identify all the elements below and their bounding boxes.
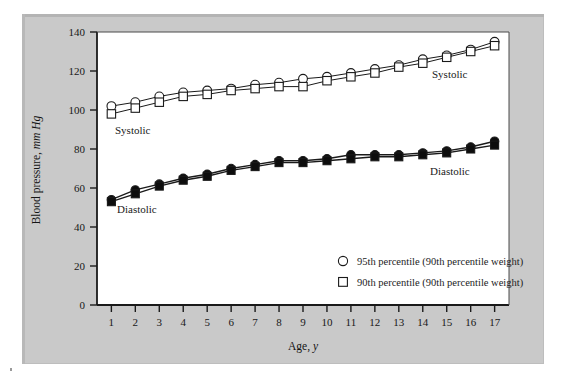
y-tick-label: 60 (74, 182, 86, 194)
x-tick-label: 11 (346, 316, 357, 328)
data-point-marker (371, 153, 379, 161)
data-point-marker (491, 141, 499, 149)
x-tick-label: 13 (393, 316, 405, 328)
data-point-marker (443, 53, 451, 61)
data-point-marker (131, 104, 139, 112)
x-tick-label: 10 (321, 316, 333, 328)
annotation-diastolic-right: Diastolic (430, 165, 470, 177)
x-tick-label: 4 (180, 316, 186, 328)
data-point-marker (395, 153, 403, 161)
data-point-marker (419, 59, 427, 67)
data-point-marker (467, 145, 475, 153)
y-tick-label: 0 (80, 299, 86, 311)
x-tick-label: 7 (252, 316, 258, 328)
data-point-marker (371, 69, 379, 77)
y-tick-label: 80 (74, 143, 86, 155)
scan-speck (10, 368, 12, 371)
annotation-systolic-right: Systolic (432, 68, 468, 80)
data-point-marker (107, 198, 115, 206)
blood-pressure-chart: 020406080100120140 123456789101112131415… (0, 0, 570, 386)
x-axis-title: Age, y (288, 340, 319, 353)
data-point-marker (347, 155, 355, 163)
data-point-marker (251, 163, 259, 171)
data-point-marker (299, 159, 307, 167)
y-axis-title: Blood pressure, mm Hg (30, 115, 43, 224)
data-point-marker (107, 110, 115, 118)
x-tick-label: 5 (204, 316, 210, 328)
data-point-marker (275, 82, 283, 90)
svg-text:Blood pressure, mm Hg: Blood pressure, mm Hg (30, 115, 43, 224)
y-tick-label: 20 (74, 260, 86, 272)
data-point-marker (155, 98, 163, 106)
annotation-diastolic-left: Diastolic (117, 203, 157, 215)
data-point-marker (443, 149, 451, 157)
data-point-marker (227, 166, 235, 174)
data-point-marker (227, 86, 235, 94)
x-tick-label: 15 (441, 316, 453, 328)
x-tick-label: 1 (109, 316, 115, 328)
x-tick-label: 2 (133, 316, 139, 328)
data-point-marker (275, 159, 283, 167)
data-point-marker (179, 176, 187, 184)
data-point-marker (419, 151, 427, 159)
x-tick-label: 12 (369, 316, 380, 328)
x-tick-label: 8 (276, 316, 282, 328)
data-point-marker (251, 84, 259, 92)
y-axis-title-main: Blood pressure, (30, 152, 43, 224)
data-point-marker (395, 63, 403, 71)
figure-page: 020406080100120140 123456789101112131415… (0, 0, 570, 386)
data-point-marker (179, 92, 187, 100)
x-tick-label: 6 (228, 316, 234, 328)
data-point-marker (203, 172, 211, 180)
data-point-marker (347, 73, 355, 81)
x-tick-label: 17 (489, 316, 501, 328)
y-tick-label: 40 (74, 221, 86, 233)
x-axis-ticks: 1234567891011121314151617 (109, 305, 501, 328)
x-tick-label: 9 (300, 316, 306, 328)
y-axis-title-units: mm Hg (30, 115, 43, 149)
y-tick-label: 100 (69, 104, 86, 116)
x-tick-label: 14 (417, 316, 429, 328)
data-point-marker (155, 182, 163, 190)
y-axis-ticks: 020406080100120140 (69, 26, 98, 311)
data-point-marker (203, 90, 211, 98)
data-point-marker (490, 42, 498, 50)
x-axis-title-units: y (312, 340, 319, 353)
data-point-marker (467, 47, 475, 55)
data-point-marker (323, 157, 331, 165)
x-tick-label: 16 (465, 316, 477, 328)
annotation-systolic-left: Systolic (115, 124, 151, 136)
y-tick-label: 140 (69, 26, 86, 38)
data-point-marker (299, 82, 307, 90)
x-tick-label: 3 (157, 316, 163, 328)
data-point-marker (323, 77, 331, 85)
x-axis-title-main: Age, (288, 340, 310, 353)
y-tick-label: 120 (69, 65, 86, 77)
data-point-marker (131, 190, 139, 198)
legend-item-95th-label: 95th percentile (90th percentile weight) (357, 256, 524, 268)
legend-item-90th-label: 90th percentile (90th percentile weight) (357, 277, 524, 289)
